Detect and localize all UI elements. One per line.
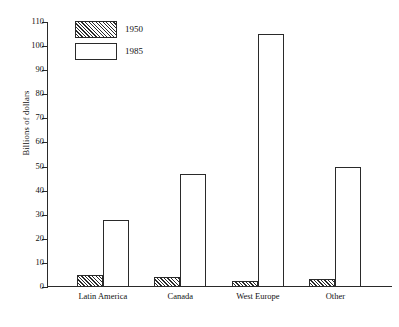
x-label-west-europe: West Europe: [236, 291, 279, 301]
y-tick-label: 50: [36, 161, 45, 172]
legend-label-1985: 1985: [125, 46, 143, 56]
bar-1985-west-europe: [258, 34, 284, 287]
y-tick-label: 80: [36, 88, 45, 99]
x-label-latin-america: Latin America: [78, 291, 127, 301]
bar-1950-canada: [154, 277, 180, 287]
legend-item-1950: 1950: [75, 21, 195, 41]
y-tick-label: 100: [31, 40, 44, 51]
bar-1985-other: [335, 167, 361, 287]
y-tick-label: 90: [36, 64, 45, 75]
bar-1950-latin-america: [77, 275, 103, 287]
legend: 1950 1985: [75, 21, 195, 65]
bar-1950-west-europe: [232, 281, 258, 287]
y-tick-label: 110: [32, 16, 44, 27]
bar-1950-other: [309, 279, 335, 287]
legend-swatch-1950: [75, 21, 117, 38]
legend-swatch-1985: [75, 43, 117, 60]
legend-item-1985: 1985: [75, 43, 195, 63]
y-tick-label: 70: [36, 112, 45, 123]
bar-1985-latin-america: [103, 220, 129, 287]
y-tick-label: 40: [36, 185, 45, 196]
x-label-canada: Canada: [168, 291, 194, 301]
y-tick-label: 60: [36, 136, 45, 147]
y-tick-label: 20: [36, 233, 45, 244]
y-tick-label: 10: [36, 257, 45, 268]
bar-1985-canada: [180, 174, 206, 287]
legend-label-1950: 1950: [125, 24, 143, 34]
y-axis-title: Billions of dollars: [21, 53, 31, 193]
y-tick-label: 0: [40, 281, 44, 292]
y-tick-label: 30: [36, 209, 45, 220]
bar-chart: Billions of dollars 01020304050607080901…: [0, 0, 399, 327]
x-label-other: Other: [326, 291, 345, 301]
